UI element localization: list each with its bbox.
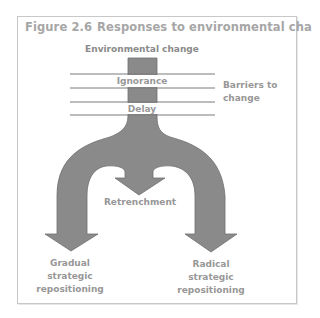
flow-trunk-shape [45,58,237,252]
retrenchment-label: Retrenchment [95,196,185,208]
radical-line1: Radical [171,258,251,271]
barriers-to-change-label: Barriers to change [223,79,277,105]
gradual-line1: Gradual [30,257,110,270]
gradual-line2: strategic [30,270,110,283]
gradual-line3: repositioning [30,283,110,296]
environmental-change-label: Environmental change [82,43,202,55]
barriers-label-line2: change [223,92,277,105]
gradual-repositioning-label: Gradual strategic repositioning [30,257,110,296]
barrier-delay-label: Delay [112,103,172,115]
radical-line3: repositioning [171,284,251,297]
barriers-label-line1: Barriers to [223,79,277,92]
radical-repositioning-label: Radical strategic repositioning [171,258,251,297]
radical-line2: strategic [171,271,251,284]
barrier-ignorance-label: Ignorance [102,75,182,87]
